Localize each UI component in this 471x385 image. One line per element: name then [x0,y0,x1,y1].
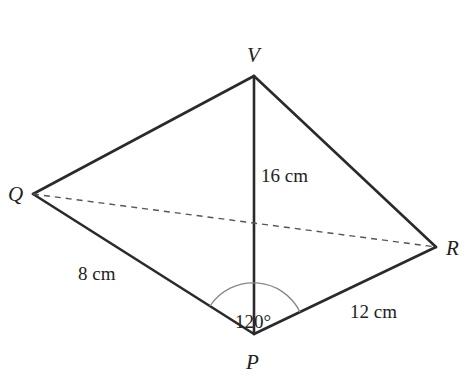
edge-vq [33,76,254,194]
vertex-label-v: V [247,43,262,67]
edge-qp [33,194,254,334]
length-label-qp: 8 cm [78,263,116,284]
pyramid-diagram: V Q R P 16 cm 8 cm 12 cm 120° [0,0,471,385]
angle-label-qpr: 120° [235,311,271,332]
length-label-vp: 16 cm [261,165,308,186]
vertex-label-p: P [245,350,259,374]
vertex-label-q: Q [8,182,23,206]
edge-vr [254,76,436,247]
vertex-label-r: R [445,236,459,260]
length-label-rp: 12 cm [350,301,397,322]
edge-qr-hidden [33,194,436,247]
